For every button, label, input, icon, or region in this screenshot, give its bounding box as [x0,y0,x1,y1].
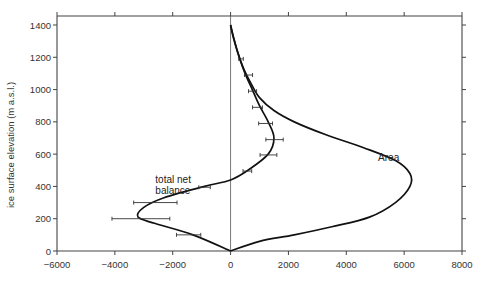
series-line [137,25,274,251]
y-tick-label: 1200 [30,52,51,63]
y-tick-label: 200 [35,213,51,224]
y-tick-label: 600 [35,149,51,160]
x-tick-label: −2000 [159,259,186,270]
x-tick-label: 2000 [278,259,299,270]
error-bars [112,57,283,237]
y-tick-label: 0 [46,246,51,257]
series-line [231,25,412,251]
axes [57,16,462,251]
area-label: Area [378,152,400,163]
x-axis-ticks: −6000−4000−200002000400060008000 [44,12,473,270]
chart: −6000−4000−200002000400060008000 0200400… [0,0,480,291]
y-tick-label: 400 [35,181,51,192]
x-tick-label: 4000 [336,259,357,270]
total-net-balance-curve [137,25,274,251]
y-tick-label: 800 [35,116,51,127]
x-tick-label: 8000 [451,259,472,270]
total-net-balance-label: balance [155,185,190,196]
y-tick-label: 1400 [30,20,51,31]
total-net-balance-label: total net [155,174,191,185]
y-axis-label: ice surface elevation (m a.s.l.) [5,82,16,208]
y-tick-label: 1000 [30,84,51,95]
x-tick-label: −4000 [102,259,129,270]
x-tick-label: −6000 [44,259,71,270]
x-tick-label: 0 [228,259,233,270]
area-curve [231,25,412,251]
x-tick-label: 6000 [394,259,415,270]
y-axis-ticks: 0200400600800100012001400 [30,20,466,257]
